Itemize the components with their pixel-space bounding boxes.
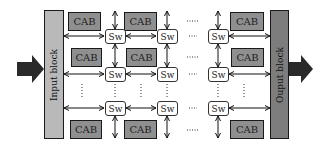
input-block: Input block xyxy=(44,10,64,139)
sw-r3-c2: Sw xyxy=(157,101,178,116)
input-block-label: Input block xyxy=(49,49,59,101)
cab-r2-c2: CAB xyxy=(126,48,157,67)
cab-r1-c1: CAB xyxy=(68,12,101,31)
sw-r3-c1: Sw xyxy=(105,101,126,116)
cab-r1-c2: CAB xyxy=(124,12,157,31)
cab-r3-c2: CAB xyxy=(124,120,157,139)
sw-r1-c3: Sw xyxy=(208,29,229,44)
cab-r2-c3: CAB xyxy=(231,48,264,67)
output-block: Ouput block xyxy=(270,10,289,139)
output-block-label: Ouput block xyxy=(275,47,285,103)
cab-r3-c3: CAB xyxy=(230,120,264,139)
cab-r1-c3: CAB xyxy=(230,12,264,31)
sw-r1-c1: Sw xyxy=(105,29,126,44)
sw-r2-c1: Sw xyxy=(105,67,126,82)
cab-r3-c1: CAB xyxy=(70,120,102,139)
output-arrow-icon xyxy=(288,55,313,83)
sw-r2-c2: Sw xyxy=(157,67,178,82)
input-arrow-icon xyxy=(17,55,44,83)
cab-r2-c1: CAB xyxy=(71,48,102,67)
sw-r2-c3: Sw xyxy=(208,67,229,82)
sw-r3-c3: Sw xyxy=(208,101,229,116)
sw-r1-c2: Sw xyxy=(157,29,178,44)
